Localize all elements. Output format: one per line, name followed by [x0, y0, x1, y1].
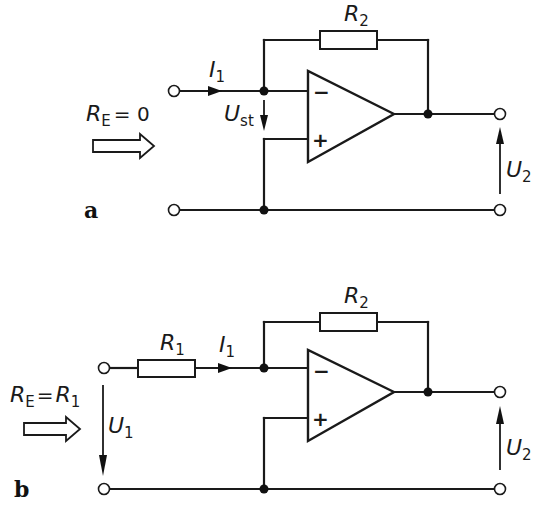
b-input-direction-arrow-icon [24, 417, 80, 441]
a-junction-inverting [260, 87, 269, 96]
b-resistor-r2 [320, 313, 377, 331]
a-input-direction-arrow-icon [93, 134, 154, 158]
b-u2-arrow-icon [496, 406, 504, 424]
b-junction-ground [260, 485, 269, 494]
b-output-terminal [495, 387, 506, 398]
a-inverting-sign: − [313, 80, 330, 104]
b-panel-label: b [14, 476, 29, 502]
b-junction-output [424, 388, 433, 397]
a-junction-ground [260, 206, 269, 215]
a-u2-arrow-icon [496, 127, 504, 144]
a-noninverting-sign: + [312, 128, 329, 152]
a-panel-label: a [84, 197, 98, 223]
a-output-ground-terminal [495, 205, 506, 216]
a-label-i1: I1 [209, 57, 225, 86]
b-inverting-sign: − [313, 359, 330, 383]
schematic-figure: − + R2 I1 Ust U2 RE= 0 a [0, 0, 535, 523]
a-input-terminal [169, 86, 180, 97]
a-current-arrow-icon [208, 86, 222, 96]
b-label-r2: R2 [344, 283, 369, 312]
a-label-r2: R2 [344, 1, 369, 30]
a-junction-output [424, 110, 433, 119]
b-label-u1: U1 [108, 413, 134, 442]
b-label-re: RE=R1 [10, 382, 80, 411]
a-output-terminal [495, 109, 506, 120]
b-input-ground-terminal [99, 484, 110, 495]
b-label-u2: U2 [506, 435, 532, 464]
b-u1-arrow-icon [99, 455, 107, 476]
a-label-u2: U2 [506, 157, 532, 186]
circuit-a: − + R2 I1 Ust U2 RE= 0 a [84, 1, 532, 223]
b-label-r1: R1 [160, 330, 185, 359]
b-resistor-r1 [138, 360, 195, 377]
a-resistor-r2 [320, 31, 377, 49]
schematic-svg: − + R2 I1 Ust U2 RE= 0 a [0, 0, 535, 523]
circuit-b: − + R2 R1 I1 U1 U2 RE=R1 b [10, 283, 532, 502]
b-junction-inverting [260, 364, 269, 373]
b-input-terminal [99, 363, 110, 374]
b-label-i1: I1 [219, 332, 235, 361]
a-input-ground-terminal [169, 205, 180, 216]
a-ust-arrow-icon [260, 115, 268, 131]
a-label-re: RE= 0 [86, 101, 150, 130]
b-output-ground-terminal [495, 484, 506, 495]
b-noninverting-sign: + [312, 407, 329, 431]
a-label-ust: Ust [224, 101, 254, 130]
b-current-arrow-icon [218, 363, 232, 373]
